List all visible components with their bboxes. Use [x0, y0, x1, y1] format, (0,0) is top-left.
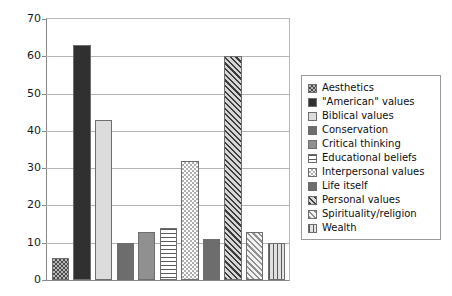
- legend-item-label: Spirituality/religion: [322, 208, 417, 220]
- y-tick-label: 50: [1, 88, 41, 99]
- legend-item[interactable]: Aesthetics: [308, 81, 436, 95]
- legend-item[interactable]: Spirituality/religion: [308, 207, 436, 221]
- legend-item[interactable]: "American" values: [308, 95, 436, 109]
- legend-swatch-icon: [308, 224, 317, 233]
- legend-item-label: Interpersonal values: [322, 166, 424, 178]
- legend-item[interactable]: Critical thinking: [308, 137, 436, 151]
- legend-swatch-icon: [308, 196, 317, 205]
- legend-item[interactable]: Personal values: [308, 193, 436, 207]
- y-tick-mark: [42, 168, 46, 169]
- plot-area: [46, 18, 290, 281]
- legend-swatch-icon: [308, 112, 317, 121]
- y-axis-labels: 706050403020100: [0, 18, 41, 281]
- legend-item-label: Personal values: [322, 194, 400, 206]
- legend-item-label: Critical thinking: [322, 138, 401, 150]
- bar[interactable]: [52, 258, 69, 280]
- legend-swatch-icon: [308, 126, 317, 135]
- bar[interactable]: [95, 120, 112, 280]
- legend-swatch-icon: [308, 154, 317, 163]
- bar-chart: 706050403020100 Aesthetics"American" val…: [0, 0, 452, 296]
- legend-item[interactable]: Educational beliefs: [308, 151, 436, 165]
- legend-item[interactable]: Wealth: [308, 221, 436, 235]
- y-tick-mark: [42, 280, 46, 281]
- legend-swatch-icon: [308, 140, 317, 149]
- y-tick-label: 40: [1, 125, 41, 136]
- legend-item-label: Life itself: [322, 180, 368, 192]
- y-tick-label: 20: [1, 199, 41, 210]
- y-tick-mark: [42, 205, 46, 206]
- bar[interactable]: [268, 243, 285, 280]
- legend-item[interactable]: Biblical values: [308, 109, 436, 123]
- legend-item[interactable]: Life itself: [308, 179, 436, 193]
- legend-item-label: Biblical values: [322, 110, 394, 122]
- legend-swatch-icon: [308, 168, 317, 177]
- bar-series: [47, 18, 289, 280]
- legend-swatch-icon: [308, 210, 317, 219]
- y-tick-label: 30: [1, 162, 41, 173]
- bar[interactable]: [203, 239, 220, 280]
- y-tick-mark: [42, 131, 46, 132]
- legend-item-label: Educational beliefs: [322, 152, 417, 164]
- y-tick-label: 60: [1, 50, 41, 61]
- bar[interactable]: [224, 56, 241, 280]
- legend-item[interactable]: Conservation: [308, 123, 436, 137]
- bar[interactable]: [138, 232, 155, 280]
- legend-item[interactable]: Interpersonal values: [308, 165, 436, 179]
- y-tick-mark: [42, 94, 46, 95]
- y-tick-label: 10: [1, 237, 41, 248]
- bar[interactable]: [246, 232, 263, 280]
- legend-swatch-icon: [308, 84, 317, 93]
- legend-swatch-icon: [308, 182, 317, 191]
- legend-item-label: "American" values: [322, 96, 415, 108]
- y-tick-label: 0: [1, 274, 41, 285]
- legend: Aesthetics"American" valuesBiblical valu…: [301, 75, 441, 240]
- y-tick-mark: [42, 56, 46, 57]
- y-tick-label: 70: [1, 13, 41, 24]
- legend-item-label: Aesthetics: [322, 82, 374, 94]
- bar[interactable]: [73, 45, 90, 280]
- bar[interactable]: [117, 243, 134, 280]
- y-tick-mark: [42, 243, 46, 244]
- bar[interactable]: [160, 228, 177, 280]
- legend-item-label: Wealth: [322, 222, 357, 234]
- bar[interactable]: [181, 161, 198, 280]
- y-tick-mark: [42, 19, 46, 20]
- legend-swatch-icon: [308, 98, 317, 107]
- legend-item-label: Conservation: [322, 124, 388, 136]
